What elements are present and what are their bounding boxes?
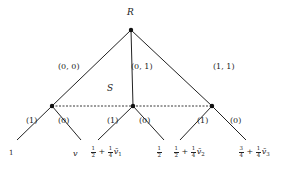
- action-label-n2-right: (0): [139, 117, 150, 125]
- fraction: 14: [108, 146, 113, 158]
- denominator: 2: [91, 153, 96, 159]
- action-label-n1-right: (0): [58, 117, 69, 125]
- subscript: 2: [201, 151, 205, 157]
- payoff-leaf-6: 34+14v̄3: [238, 146, 270, 158]
- payoff-leaf-1: 1: [9, 150, 13, 157]
- denominator: 2: [174, 153, 179, 159]
- payoff-leaf-4: 12: [156, 146, 163, 158]
- root-node: [129, 28, 133, 32]
- branch-label-left: (0, 0): [58, 63, 80, 71]
- action-label-n3-left: (1): [197, 117, 208, 125]
- denominator: 4: [256, 153, 261, 159]
- subscript: 1: [118, 151, 122, 157]
- denominator: 4: [191, 153, 196, 159]
- payoff-leaf-2: v: [73, 150, 78, 158]
- root-label: R: [127, 8, 134, 17]
- fraction: 14: [191, 146, 196, 158]
- plus-sign: +: [182, 147, 189, 156]
- subscript: 3: [266, 151, 270, 157]
- game-tree-diagram: R (0, 0) (0, 1) (1, 1) S (1) (0) (1) (0)…: [0, 0, 290, 171]
- denominator: 4: [108, 153, 113, 159]
- payoff-leaf-5: 12+14v̄2: [173, 146, 205, 158]
- denominator: 4: [239, 153, 244, 159]
- plus-sign: +: [247, 147, 254, 156]
- decision-node-3: [210, 104, 214, 108]
- action-label-n2-left: (1): [107, 117, 118, 125]
- denominator: 2: [157, 153, 162, 159]
- payoff-leaf-3: 12+14v̄1: [90, 146, 122, 158]
- action-label-n3-right: (0): [230, 117, 241, 125]
- fraction: 12: [157, 146, 162, 158]
- branch-label-middle: (0, 1): [131, 63, 153, 71]
- fraction: 14: [256, 146, 261, 158]
- fraction: 12: [91, 146, 96, 158]
- fraction: 34: [239, 146, 244, 158]
- plus-sign: +: [99, 147, 106, 156]
- information-set-label: S: [107, 84, 113, 93]
- decision-node-2: [131, 104, 135, 108]
- action-label-n1-left: (1): [26, 117, 37, 125]
- decision-node-1: [50, 104, 54, 108]
- branch-label-right: (1, 1): [213, 63, 235, 71]
- fraction: 12: [174, 146, 179, 158]
